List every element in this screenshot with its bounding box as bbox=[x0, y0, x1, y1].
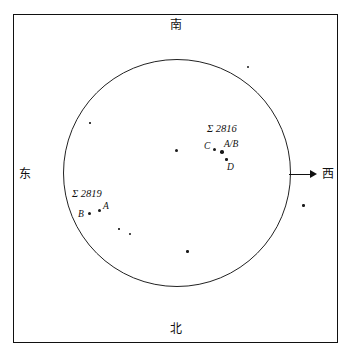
field-star bbox=[186, 250, 189, 253]
field-star bbox=[175, 149, 178, 152]
double-star-designation-sigma-2819: Σ 2819 bbox=[72, 189, 102, 200]
component-label-a: A bbox=[103, 202, 109, 212]
field-of-view-circle bbox=[63, 59, 291, 287]
field-star bbox=[89, 122, 91, 124]
double-star-designation-sigma-2816: Σ 2816 bbox=[207, 124, 237, 135]
star-point-sigma2816-ab bbox=[220, 150, 224, 154]
star-point-sigma2816-d bbox=[225, 158, 228, 161]
star-chart-figure: 南 北 东 西 Σ 2816 C A/B D Σ 2819 A B bbox=[0, 0, 352, 357]
field-star bbox=[302, 204, 305, 207]
direction-label-north-bottom: 北 bbox=[170, 323, 182, 335]
drift-arrow-head bbox=[310, 170, 317, 178]
star-point-sigma2819-b bbox=[88, 212, 91, 215]
component-label-d: D bbox=[227, 163, 234, 173]
direction-label-west: 西 bbox=[322, 168, 334, 180]
direction-label-south-top: 南 bbox=[170, 19, 182, 31]
field-star bbox=[129, 233, 131, 235]
field-star bbox=[118, 228, 120, 230]
star-point-sigma2816-c bbox=[213, 148, 216, 151]
field-star bbox=[247, 66, 249, 68]
star-point-sigma2819-a bbox=[98, 209, 101, 212]
direction-label-east: 东 bbox=[19, 168, 31, 180]
component-label-c: C bbox=[204, 142, 210, 152]
component-label-ab: A/B bbox=[224, 140, 238, 150]
component-label-b: B bbox=[78, 210, 84, 220]
